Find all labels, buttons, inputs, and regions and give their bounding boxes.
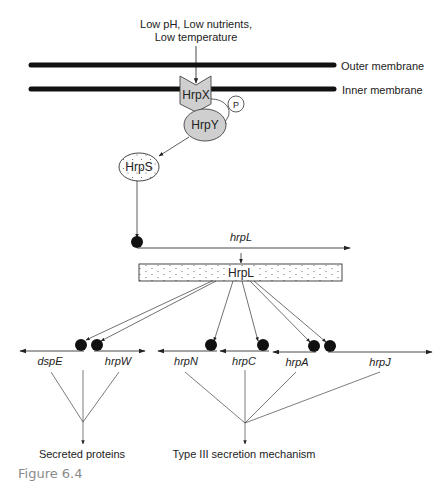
stimulus-line-1: Low pH, Low nutrients, [140,18,252,30]
t3ss-convergence [185,370,380,444]
hrpw-promoter [91,339,103,351]
hrpx-label: HrpX [182,88,209,102]
phosphate-label: P [233,100,239,110]
hrp-regulation-diagram: Low pH, Low nutrients, Low temperature O… [0,0,448,488]
outer-membrane-label: Outer membrane [341,60,424,72]
secreted-proteins-label: Secreted proteins [39,448,126,460]
hrps-label: HrpS [125,160,152,174]
hrpj-gene-label: hrpJ [369,356,391,368]
stimulus-line-2: Low temperature [155,31,238,43]
hrpl-gene-label: hrpL [230,231,252,243]
t3ss-label: Type III secretion mechanism [172,448,315,460]
hrpw-gene-label: hrpW [105,355,133,367]
hrpy-label: HrpY [191,118,218,132]
hrpl-activation-arrows [86,281,326,342]
hrpl-protein-label: HrpL [228,266,254,280]
hrpy-to-hrps-arrow [159,137,189,156]
hrpn-promoter [205,339,217,351]
hrpj-promoter [324,340,336,352]
hrpa-promoter [308,340,320,352]
gene-row: dspE hrpW hrpN hrpC hrpA hrpJ [20,339,432,368]
hrpc-gene-label: hrpC [232,355,256,367]
hrpa-gene-label: hrpA [285,356,308,368]
hrpc-promoter [257,339,269,351]
figure-caption: Figure 6.4 [18,466,83,481]
inner-membrane-label: Inner membrane [342,84,423,96]
dspe-gene-label: dspE [37,355,63,367]
secreted-proteins-convergence [51,370,119,444]
dspe-promoter [75,339,87,351]
hrpn-gene-label: hrpN [174,355,198,367]
hrpl-promoter [131,236,143,248]
